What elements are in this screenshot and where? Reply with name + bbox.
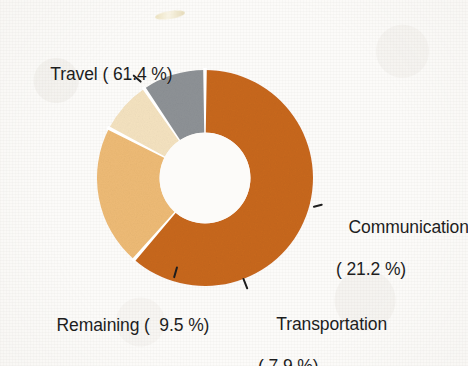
donut-hole (160, 133, 251, 224)
slice-label-communication-value: ( 21.2 %) (320, 259, 468, 280)
slice-label-travel: Travel ( 61.4 %) (22, 43, 173, 106)
slice-label-transportation: Transportation ( 7.9 %) (248, 293, 387, 366)
slice-label-remaining-text: Remaining ( 9.5 %) (57, 315, 210, 335)
chart-page: Travel ( 61.4 %) Communication ( 21.2 %)… (0, 0, 468, 366)
slice-label-remaining: Remaining ( 9.5 %) (28, 294, 209, 357)
slice-label-transportation-value: ( 7.9 %) (248, 356, 387, 366)
slice-label-travel-text: Travel ( 61.4 %) (50, 64, 172, 84)
slice-label-transportation-name: Transportation (276, 314, 387, 334)
slice-label-communication-name: Communication (349, 217, 468, 237)
donut-chart: Travel ( 61.4 %) Communication ( 21.2 %)… (0, 0, 468, 366)
